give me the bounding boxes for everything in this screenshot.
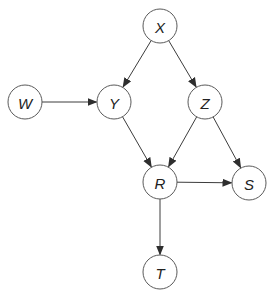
- edge-r-to-s: [177, 182, 232, 183]
- edge-z-to-r: [169, 117, 197, 167]
- dag-diagram: XWYZRST: [0, 0, 271, 297]
- node-t: T: [143, 255, 177, 289]
- node-s: S: [232, 166, 266, 200]
- node-label: W: [18, 95, 34, 112]
- node-label: Z: [199, 95, 210, 112]
- node-label: Y: [109, 95, 120, 112]
- nodes-layer: XWYZRST: [8, 9, 266, 289]
- node-label: X: [154, 19, 166, 36]
- edge-x-to-z: [169, 41, 196, 87]
- edge-y-to-r: [123, 117, 152, 167]
- edge-x-to-y: [123, 41, 151, 88]
- node-r: R: [143, 165, 177, 199]
- edge-z-to-s: [213, 117, 241, 168]
- node-label: R: [155, 175, 166, 192]
- edges-layer: [42, 41, 241, 255]
- node-y: Y: [97, 85, 131, 119]
- node-w: W: [8, 85, 42, 119]
- node-z: Z: [188, 85, 222, 119]
- node-label: S: [244, 176, 254, 193]
- node-x: X: [143, 9, 177, 43]
